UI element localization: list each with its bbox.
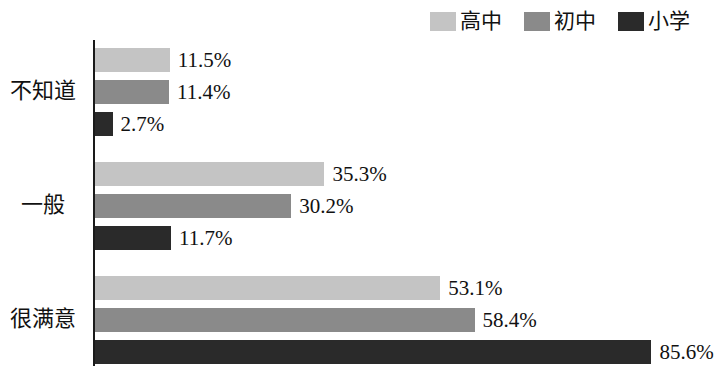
bar-chart: 高中初中小学 不知道11.5%11.4%2.7%一般35.3%30.2%11.7… — [0, 0, 719, 366]
bar-row: 53.1% — [95, 276, 502, 300]
bar-value-label: 30.2% — [299, 196, 353, 217]
bar-row: 30.2% — [95, 194, 354, 218]
bar-row: 11.5% — [95, 48, 231, 72]
bar-value-label: 35.3% — [332, 164, 386, 185]
bar-value-label: 85.6% — [659, 342, 713, 363]
bar-value-label: 53.1% — [448, 278, 502, 299]
bar[interactable] — [95, 80, 169, 104]
category-label: 一般 — [0, 194, 86, 216]
bar[interactable] — [95, 276, 440, 300]
bar-row: 58.4% — [95, 308, 537, 332]
bar-row: 35.3% — [95, 162, 387, 186]
bar[interactable] — [95, 48, 170, 72]
bar-row: 2.7% — [95, 112, 164, 136]
plot-area: 不知道11.5%11.4%2.7%一般35.3%30.2%11.7%很满意53.… — [0, 0, 719, 366]
bar[interactable] — [95, 194, 291, 218]
bar-value-label: 11.5% — [178, 50, 231, 71]
bar[interactable] — [95, 308, 475, 332]
bar[interactable] — [95, 162, 324, 186]
bar-value-label: 58.4% — [483, 310, 537, 331]
bar-value-label: 11.4% — [177, 82, 230, 103]
bar-row: 85.6% — [95, 340, 714, 364]
bar[interactable] — [95, 112, 113, 136]
bar[interactable] — [95, 340, 651, 364]
category-label: 很满意 — [0, 308, 86, 330]
bar-value-label: 11.7% — [179, 228, 232, 249]
bar-row: 11.4% — [95, 80, 231, 104]
bar[interactable] — [95, 226, 171, 250]
bar-row: 11.7% — [95, 226, 233, 250]
bar-value-label: 2.7% — [121, 114, 165, 135]
category-label: 不知道 — [0, 80, 86, 102]
